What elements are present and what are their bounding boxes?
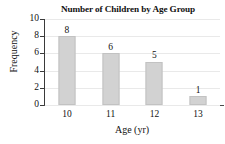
y-tick-label-2: 2 bbox=[34, 83, 39, 93]
y-axis-label: Frequency bbox=[8, 12, 19, 92]
bar-value-11: 6 bbox=[108, 42, 113, 52]
x-tick-label-11: 11 bbox=[106, 109, 115, 119]
bar-value-13: 1 bbox=[196, 85, 201, 95]
gridline-0 bbox=[45, 105, 220, 106]
bar-chart: Number of Children by Age Group Frequenc… bbox=[0, 0, 225, 144]
x-axis-label: Age (yr) bbox=[44, 124, 220, 135]
y-tick-label-6: 6 bbox=[34, 49, 39, 59]
bar-value-10: 8 bbox=[65, 25, 70, 35]
y-tick-mark-8 bbox=[40, 36, 44, 37]
x-tick-label-10: 10 bbox=[62, 109, 72, 119]
y-tick-mark-10 bbox=[40, 19, 44, 20]
bar-11[interactable] bbox=[102, 53, 119, 105]
bar-12[interactable] bbox=[146, 62, 163, 105]
bar-10[interactable] bbox=[58, 36, 75, 105]
bar-value-12: 5 bbox=[152, 50, 157, 60]
bar-13[interactable] bbox=[190, 96, 207, 105]
x-tick-label-12: 12 bbox=[150, 109, 160, 119]
y-tick-mark-4 bbox=[40, 71, 44, 72]
x-tick-label-13: 13 bbox=[193, 109, 203, 119]
y-tick-mark-6 bbox=[40, 53, 44, 54]
bar-group-10: 8 bbox=[45, 19, 89, 105]
y-tick-label-10: 10 bbox=[30, 14, 40, 24]
y-tick-label-8: 8 bbox=[34, 31, 39, 41]
y-tick-label-4: 4 bbox=[34, 66, 39, 76]
chart-title: Number of Children by Age Group bbox=[34, 4, 222, 15]
bar-group-13: 1 bbox=[176, 19, 220, 105]
y-tick-mark-0 bbox=[40, 105, 44, 106]
y-tick-mark-2 bbox=[40, 88, 44, 89]
bar-series: 8 6 5 1 bbox=[45, 19, 220, 105]
y-tick-label-0: 0 bbox=[34, 100, 39, 110]
bar-group-11: 6 bbox=[89, 19, 133, 105]
bar-group-12: 5 bbox=[133, 19, 177, 105]
plot-area: 0 2 4 6 8 10 8 6 5 bbox=[44, 19, 220, 106]
